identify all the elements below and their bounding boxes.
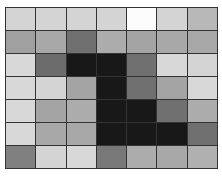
- grid-cell-r5-c1: [36, 123, 65, 145]
- grid-cell-r3-c4: [127, 77, 156, 99]
- grid-cell-r5-c2: [67, 123, 96, 145]
- grid-cell-r4-c0: [6, 100, 35, 122]
- grid-cell-r1-c3: [97, 31, 126, 53]
- grid-cell-r4-c1: [36, 100, 65, 122]
- grid-cell-r1-c0: [6, 31, 35, 53]
- grid-cell-r4-c2: [67, 100, 96, 122]
- grid-cell-r5-c5: [157, 123, 186, 145]
- grid-cell-r6-c1: [36, 146, 65, 168]
- grid-cell-r0-c2: [67, 8, 96, 30]
- grid-cell-r0-c3: [97, 8, 126, 30]
- grid-cell-r2-c1: [36, 54, 65, 76]
- grid-cell-r3-c6: [188, 77, 217, 99]
- grid-cell-r2-c6: [188, 54, 217, 76]
- grid-cell-r4-c4: [127, 100, 156, 122]
- grid-cell-r6-c0: [6, 146, 35, 168]
- grid-cell-r5-c0: [6, 123, 35, 145]
- grid-cell-r3-c3: [97, 77, 126, 99]
- grid-cell-r0-c0: [6, 8, 35, 30]
- grid-cell-r0-c4: [127, 8, 156, 30]
- grid-cell-r1-c5: [157, 31, 186, 53]
- grid-cell-r2-c0: [6, 54, 35, 76]
- grid-cell-r4-c6: [188, 100, 217, 122]
- grid-cell-r5-c3: [97, 123, 126, 145]
- grid-cell-r0-c1: [36, 8, 65, 30]
- grid-cell-r1-c2: [67, 31, 96, 53]
- grid-cell-r3-c2: [67, 77, 96, 99]
- grid-cell-r4-c5: [157, 100, 186, 122]
- grid-cell-r2-c3: [97, 54, 126, 76]
- grid-cell-r2-c4: [127, 54, 156, 76]
- grid-cell-r1-c6: [188, 31, 217, 53]
- grid-cell-r6-c2: [67, 146, 96, 168]
- grid-cell-r3-c1: [36, 77, 65, 99]
- grid-cell-r1-c4: [127, 31, 156, 53]
- grid-cell-r3-c0: [6, 77, 35, 99]
- grid-cell-r5-c6: [188, 123, 217, 145]
- grid-cell-r6-c6: [188, 146, 217, 168]
- grid-cell-r1-c1: [36, 31, 65, 53]
- grid-cell-r3-c5: [157, 77, 186, 99]
- grayscale-grid: [5, 7, 218, 169]
- grid-cell-r4-c3: [97, 100, 126, 122]
- grid-cell-r6-c4: [127, 146, 156, 168]
- grid-cell-r5-c4: [127, 123, 156, 145]
- grid-cell-r2-c2: [67, 54, 96, 76]
- grid-cell-r0-c6: [188, 8, 217, 30]
- grid-cell-r2-c5: [157, 54, 186, 76]
- grid-cell-r6-c3: [97, 146, 126, 168]
- grid-cell-r6-c5: [157, 146, 186, 168]
- grid-cell-r0-c5: [157, 8, 186, 30]
